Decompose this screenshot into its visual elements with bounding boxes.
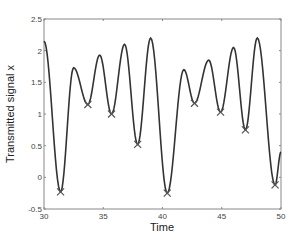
- y-tick-label: -0.5: [28, 205, 42, 214]
- x-tick-label: 35: [99, 212, 108, 221]
- y-tick-label: 2: [38, 47, 43, 56]
- x-tick-label: 50: [277, 212, 286, 221]
- line-chart: 3035404550 -0.500.511.522.5 Time Transmi…: [0, 0, 298, 238]
- y-axis-label: Transmitted signal x: [4, 64, 16, 163]
- y-tick-label: 0: [38, 173, 43, 182]
- x-tick-label: 45: [217, 212, 226, 221]
- x-axis-label: Time: [150, 221, 174, 233]
- plot-area: [44, 19, 281, 209]
- y-tick-label: 0.5: [31, 142, 43, 151]
- y-tick-label: 1.5: [31, 78, 43, 87]
- y-tick-label: 1: [38, 110, 43, 119]
- y-tick-label: 2.5: [31, 15, 43, 24]
- x-tick-label: 40: [158, 212, 167, 221]
